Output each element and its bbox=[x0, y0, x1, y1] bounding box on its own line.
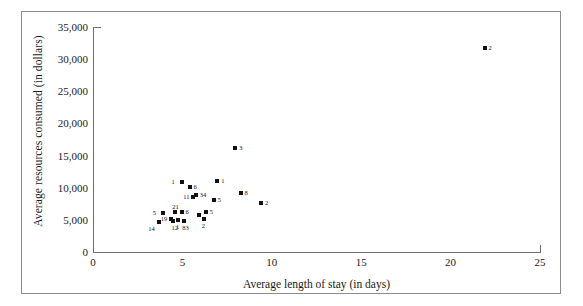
data-point bbox=[483, 46, 487, 50]
data-point-label: 5 bbox=[210, 208, 213, 215]
data-point-label: 6 bbox=[194, 183, 197, 190]
data-point-label: 19 bbox=[161, 215, 168, 222]
data-point bbox=[259, 201, 263, 205]
data-point bbox=[197, 213, 201, 217]
data-point-label: 2 bbox=[265, 199, 268, 206]
data-point bbox=[239, 191, 243, 195]
data-point bbox=[188, 185, 192, 189]
data-point-label: 3 bbox=[239, 144, 242, 151]
data-point-label: 2 bbox=[202, 222, 205, 229]
data-point-label: 6 bbox=[186, 208, 189, 215]
x-tick-label: 20 bbox=[431, 256, 471, 268]
data-point-label: 1 bbox=[172, 178, 175, 185]
data-point-label: 2 bbox=[489, 44, 492, 51]
data-point bbox=[194, 193, 198, 197]
data-point bbox=[182, 219, 186, 223]
data-point-label: 5 bbox=[218, 196, 221, 203]
data-point bbox=[215, 179, 219, 183]
data-point-label: 1 bbox=[176, 223, 179, 230]
data-point-label: 34 bbox=[200, 191, 207, 198]
x-tick-label: 10 bbox=[252, 256, 292, 268]
data-point-label: 14 bbox=[148, 225, 155, 232]
data-point bbox=[176, 218, 180, 222]
data-point bbox=[204, 210, 208, 214]
data-point-label: 1 bbox=[221, 177, 224, 184]
data-point bbox=[233, 146, 237, 150]
plot-area: 145191221168316113452513822 bbox=[93, 27, 540, 252]
data-point-label: 21 bbox=[172, 203, 179, 210]
data-point bbox=[212, 198, 216, 202]
scatter-chart: Average resources consumed (in dollars) … bbox=[0, 0, 583, 306]
data-point bbox=[202, 217, 206, 221]
data-point bbox=[180, 210, 184, 214]
data-point-label: 11 bbox=[183, 193, 189, 200]
data-point-label: 83 bbox=[182, 224, 189, 231]
x-tick-label: 0 bbox=[73, 256, 113, 268]
x-tick-label: 25 bbox=[520, 256, 560, 268]
data-point bbox=[180, 180, 184, 184]
data-point bbox=[171, 219, 175, 223]
data-point-label: 5 bbox=[153, 209, 156, 216]
x-tick-label: 15 bbox=[341, 256, 381, 268]
data-point-label: 8 bbox=[245, 189, 248, 196]
x-tick-label: 5 bbox=[162, 256, 202, 268]
data-point bbox=[173, 210, 177, 214]
